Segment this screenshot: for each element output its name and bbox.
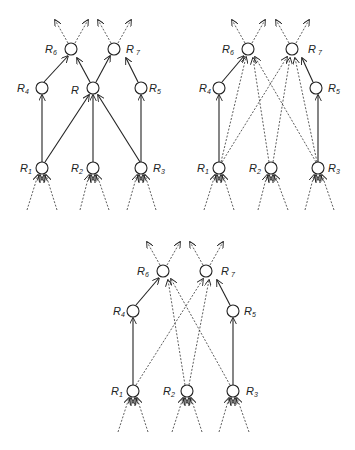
label-r3: R3 bbox=[153, 162, 165, 175]
label-r5: R5 bbox=[244, 305, 256, 318]
label-r2: R2 bbox=[163, 385, 175, 398]
label-r1: R1 bbox=[20, 162, 32, 175]
label-r6: R6 bbox=[45, 43, 57, 56]
node-r4 bbox=[213, 82, 225, 94]
label-r5: R5 bbox=[149, 82, 161, 95]
diagram-1: R6 R7 R4 R R5 R1 R2 R3 bbox=[17, 20, 165, 210]
node-r2 bbox=[265, 162, 277, 174]
diagram-canvas: R6 R7 R4 R R5 R1 R2 R3 bbox=[0, 0, 355, 450]
node-r4 bbox=[127, 305, 139, 317]
node-r7 bbox=[108, 43, 120, 55]
label-r4: R4 bbox=[113, 305, 125, 318]
label-r7: R7 bbox=[308, 43, 323, 56]
label-r4: R4 bbox=[199, 82, 211, 95]
label-r3: R3 bbox=[246, 385, 258, 398]
label-r7: R7 bbox=[221, 265, 236, 278]
label-r2: R2 bbox=[249, 162, 261, 175]
label-r6: R6 bbox=[222, 43, 234, 56]
node-r3 bbox=[227, 385, 239, 397]
node-r6 bbox=[157, 265, 169, 277]
connections bbox=[42, 56, 141, 162]
output-arrows bbox=[147, 242, 223, 265]
node-r4 bbox=[36, 82, 48, 94]
diagram-3: R6 R7 R4 R5 R1 R2 R3 bbox=[111, 242, 258, 432]
node-r5 bbox=[310, 82, 322, 94]
label-r1: R1 bbox=[197, 162, 209, 175]
label-r6: R6 bbox=[137, 265, 149, 278]
diagram-2: R6 R7 R4 R5 R1 R2 R3 bbox=[197, 20, 340, 210]
output-arrows bbox=[232, 20, 309, 43]
connections bbox=[219, 56, 318, 162]
node-r7 bbox=[286, 43, 298, 55]
input-arrows bbox=[118, 398, 249, 432]
node-r3 bbox=[312, 162, 324, 174]
node-r3 bbox=[135, 162, 147, 174]
label-r: R bbox=[71, 84, 79, 96]
node-r1 bbox=[127, 385, 139, 397]
label-r1: R1 bbox=[111, 385, 123, 398]
label-r2: R2 bbox=[71, 162, 83, 175]
node-r1 bbox=[36, 162, 48, 174]
input-arrows bbox=[204, 175, 334, 210]
label-r4: R4 bbox=[17, 82, 29, 95]
node-r5 bbox=[135, 82, 147, 94]
node-r1 bbox=[213, 162, 225, 174]
label-r5: R5 bbox=[328, 82, 340, 95]
node-r6 bbox=[242, 43, 254, 55]
label-r3: R3 bbox=[328, 162, 340, 175]
label-r7: R7 bbox=[126, 43, 141, 56]
node-r2 bbox=[181, 385, 193, 397]
node-r bbox=[87, 82, 99, 94]
input-arrows bbox=[27, 175, 156, 210]
node-r2 bbox=[87, 162, 99, 174]
connections bbox=[133, 278, 233, 385]
node-r7 bbox=[200, 265, 212, 277]
node-r6 bbox=[65, 43, 77, 55]
node-r5 bbox=[227, 305, 239, 317]
output-arrows bbox=[55, 20, 131, 43]
